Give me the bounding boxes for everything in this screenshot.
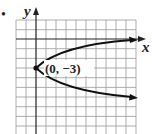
vertex-label: (0, −3) bbox=[45, 61, 81, 76]
y-axis-label: y bbox=[22, 3, 31, 19]
x-axis-label: x bbox=[141, 39, 150, 55]
bullet: • bbox=[1, 7, 6, 22]
vertex-point bbox=[33, 65, 38, 70]
parabola-graph: • y x (0, −3) bbox=[0, 0, 152, 134]
